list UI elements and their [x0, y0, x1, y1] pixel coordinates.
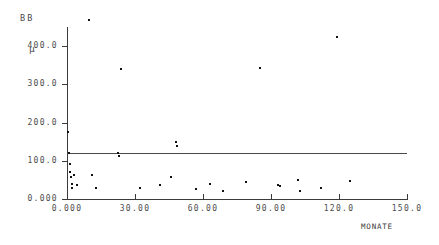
y-tick-mark [62, 46, 68, 47]
data-point [88, 19, 90, 21]
data-point [279, 185, 281, 187]
x-tick-mark [339, 194, 340, 200]
x-tick-label: 90.00 [245, 204, 297, 213]
scatter-chart: BB µ 0.000100.0200.0300.0400.0 0.00030.0… [0, 0, 439, 245]
data-point [297, 179, 299, 181]
y-tick-mark [62, 161, 68, 162]
data-point [68, 152, 70, 154]
data-point [118, 155, 120, 157]
data-point [139, 187, 141, 189]
y-axis-title: BB [20, 13, 35, 23]
x-axis-line [67, 199, 408, 200]
data-point [73, 174, 75, 176]
data-point [336, 36, 338, 38]
data-point [320, 187, 322, 189]
y-tick-label: 400.0 [12, 41, 58, 50]
x-tick-mark [135, 194, 136, 200]
data-point [91, 174, 93, 176]
data-point [95, 187, 97, 189]
x-tick-label: 60.00 [177, 204, 229, 213]
x-axis-title: MONATE [361, 222, 393, 231]
y-tick-label: 0.000 [12, 194, 58, 203]
data-point [120, 68, 122, 70]
x-tick-mark [203, 194, 204, 200]
x-tick-mark [271, 194, 272, 200]
data-point [209, 183, 211, 185]
x-tick-label: 30.00 [109, 204, 161, 213]
data-point [69, 163, 71, 165]
data-point [159, 184, 161, 186]
data-point [67, 131, 69, 133]
data-point [299, 190, 301, 192]
data-point [71, 183, 73, 185]
data-point [259, 67, 261, 69]
data-point [349, 180, 351, 182]
y-tick-label: 100.0 [12, 156, 58, 165]
data-point [69, 171, 71, 173]
data-point [195, 188, 197, 190]
data-point [175, 141, 177, 143]
y-axis-line [67, 27, 68, 200]
y-tick-mark [62, 84, 68, 85]
data-point [117, 152, 119, 154]
y-tick-label: 300.0 [12, 79, 58, 88]
x-tick-label: 120.0 [313, 204, 365, 213]
x-tick-label: 0.000 [41, 204, 93, 213]
x-tick-mark [407, 194, 408, 200]
data-point [245, 181, 247, 183]
x-tick-label: 150.0 [381, 204, 433, 213]
data-point [76, 184, 78, 186]
data-point [176, 145, 178, 147]
data-point [71, 187, 73, 189]
data-point [70, 176, 72, 178]
y-tick-mark [62, 123, 68, 124]
data-point [222, 190, 224, 192]
data-point [170, 176, 172, 178]
x-tick-mark [67, 194, 68, 200]
y-tick-label: 200.0 [12, 118, 58, 127]
